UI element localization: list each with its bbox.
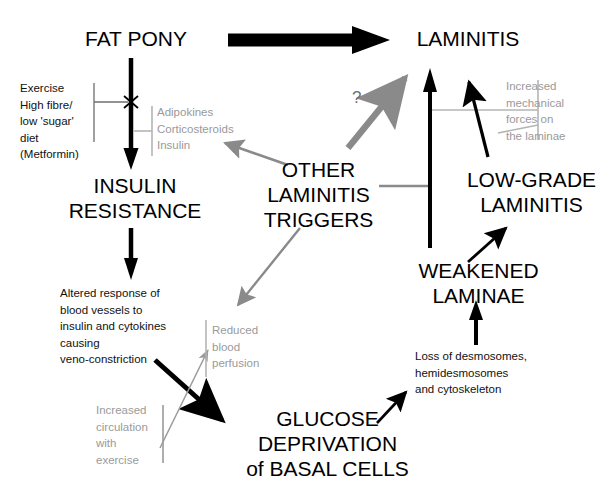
annotation-loss-desmosomes: Loss of desmosomes, hemidesmosomes and c… bbox=[415, 348, 575, 398]
node-fat-pony: FAT PONY bbox=[85, 26, 185, 51]
node-glucose-deprivation-line2: DEPRIVATION bbox=[240, 431, 415, 456]
node-glucose-deprivation-line3: of BASAL CELLS bbox=[240, 456, 415, 481]
annotation-exercise-diet: Exercise High fibre/ low 'sugar' diet (M… bbox=[20, 80, 100, 163]
label-question-mark: ? bbox=[352, 88, 361, 108]
node-insulin-resistance-line1: INSULIN bbox=[55, 173, 215, 198]
node-other-triggers-line3: TRIGGERS bbox=[256, 207, 381, 232]
node-glucose-deprivation-line1: GLUCOSE bbox=[240, 406, 415, 431]
edge-weakened-laminae-to-laminitis bbox=[423, 68, 437, 248]
node-weakened-laminae-line2: LAMINAE bbox=[401, 283, 556, 308]
annotation-increased-mechanical-forces: Increased mechanical forces on the lamin… bbox=[506, 78, 601, 144]
edge-fat-pony-to-insulin-resistance bbox=[124, 58, 139, 170]
node-low-grade-laminitis-line2: LAMINITIS bbox=[459, 192, 604, 217]
diagram-canvas: FAT PONY LAMINITIS Exercise High fibre/ … bbox=[0, 0, 611, 498]
edge-weakened-laminae-to-low-grade-laminitis bbox=[468, 228, 506, 262]
node-other-triggers-line2: LAMINITIS bbox=[256, 182, 381, 207]
node-laminitis: LAMINITIS bbox=[403, 26, 533, 51]
annotation-adipokines: Adipokines Corticosteroids Insulin bbox=[157, 104, 267, 154]
annotation-increased-circulation: Increased circulation with exercise bbox=[96, 402, 186, 468]
node-low-grade-laminitis-line1: LOW-GRADE bbox=[459, 167, 604, 192]
edge-low-grade-laminitis-to-laminitis bbox=[469, 82, 488, 157]
edge-insulin-resistance-to-altered-response bbox=[124, 228, 138, 280]
edge-triggers-to-reduced-perfusion bbox=[238, 228, 300, 305]
node-insulin-resistance-line2: RESISTANCE bbox=[55, 198, 215, 223]
edge-fat-pony-to-laminitis bbox=[228, 26, 390, 54]
annotation-reduced-perfusion: Reduced blood perfusion bbox=[212, 322, 302, 372]
node-other-triggers-line1: OTHER bbox=[256, 157, 381, 182]
node-weakened-laminae-line1: WEAKENED bbox=[401, 258, 556, 283]
